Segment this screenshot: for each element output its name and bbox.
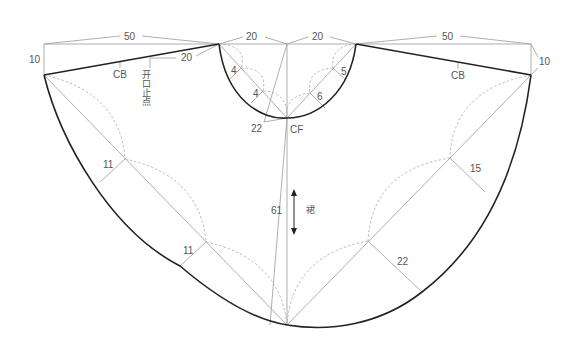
label-opening-stop: 开口止点 — [141, 70, 151, 107]
label-top-right-width: 50 — [442, 31, 454, 42]
label-center-length: 61 — [271, 205, 283, 216]
pattern-diagram: 50 20 20 50 10 10 CB CB 20 开口止点 4 4 5 6 … — [0, 0, 581, 349]
dimension-labels: 50 20 20 50 10 10 CB CB 20 开口止点 4 4 5 6 … — [29, 31, 551, 267]
label-right-upper-offset: 15 — [470, 163, 482, 174]
label-neck-right-inner: 6 — [317, 91, 323, 102]
label-right-cb: CB — [451, 70, 465, 81]
label-top-left-neck: 20 — [246, 31, 258, 42]
label-left-upper-offset: 11 — [103, 159, 114, 170]
label-left-drop: 10 — [29, 54, 41, 65]
label-neck-depth: 22 — [251, 123, 263, 134]
label-neck-left-outer: 4 — [231, 65, 237, 76]
dashed-arcs — [44, 44, 531, 325]
label-right-drop: 10 — [539, 56, 551, 67]
label-grain: 裙 — [306, 204, 315, 215]
label-top-left-width: 50 — [124, 31, 136, 42]
label-opening-offset: 20 — [181, 52, 193, 63]
label-left-lower-offset: 11 — [183, 245, 194, 256]
label-left-cb: CB — [113, 69, 127, 80]
construction-lines — [44, 44, 531, 325]
label-neck-left-inner: 4 — [253, 88, 259, 99]
label-top-right-neck: 20 — [312, 31, 324, 42]
grainline-arrow — [291, 189, 297, 235]
label-right-lower-offset: 22 — [397, 256, 409, 267]
pattern-outline — [44, 44, 531, 327]
label-neck-right-outer: 5 — [341, 66, 347, 77]
label-cf: CF — [290, 124, 303, 135]
